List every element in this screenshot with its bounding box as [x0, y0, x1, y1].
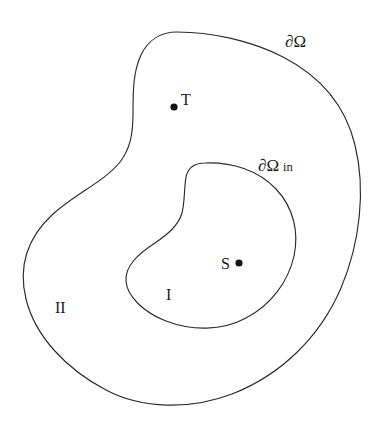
- outer-boundary-label: ∂Ω: [285, 32, 306, 51]
- inner-boundary-label: ∂Ω: [258, 156, 279, 175]
- domain-diagram-svg: ∂Ω ∂Ω in T S I II: [0, 0, 380, 423]
- point-s-label: S: [221, 255, 230, 272]
- point-t-label: T: [181, 91, 191, 108]
- point-s-dot: [235, 259, 242, 266]
- diagram-background: [0, 0, 380, 423]
- point-t-dot: [170, 103, 177, 110]
- region-i-label: I: [166, 286, 171, 303]
- region-ii-label: II: [55, 299, 66, 316]
- inner-boundary-label-subscript: in: [283, 160, 293, 174]
- domain-diagram-figure: ∂Ω ∂Ω in T S I II: [0, 0, 380, 423]
